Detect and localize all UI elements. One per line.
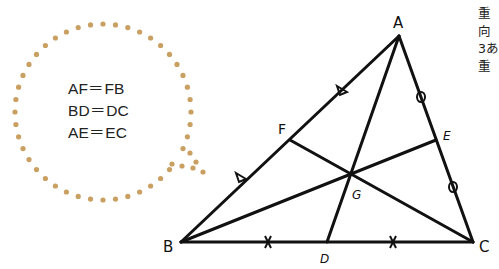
label-f: F — [278, 121, 286, 137]
bubble-equations: AF＝FB BD＝DC AE＝EC — [68, 78, 129, 144]
label-d: D — [320, 252, 329, 266]
triangle — [181, 36, 473, 242]
median-ad — [327, 36, 399, 242]
label-e: E — [443, 129, 451, 143]
side-text-line: 3あ — [478, 40, 499, 58]
median-be — [181, 140, 436, 242]
triangle-mark-fb — [236, 173, 246, 182]
label-g: G — [352, 188, 361, 202]
median-cf — [290, 140, 473, 242]
equation-ae-ec: AE＝EC — [68, 122, 129, 144]
equation-bd-dc: BD＝DC — [68, 100, 129, 122]
label-c: C — [479, 238, 489, 256]
side-text-line: 重 — [478, 5, 499, 23]
equal-marks — [236, 86, 457, 248]
label-a: A — [393, 14, 404, 32]
side-text-line: 向 — [478, 23, 499, 41]
label-b: B — [163, 238, 173, 256]
side-text-line: 重 — [478, 58, 499, 76]
side-text-cropped: 重 向 3あ 重 — [478, 5, 499, 75]
equation-af-fb: AF＝FB — [68, 78, 129, 100]
